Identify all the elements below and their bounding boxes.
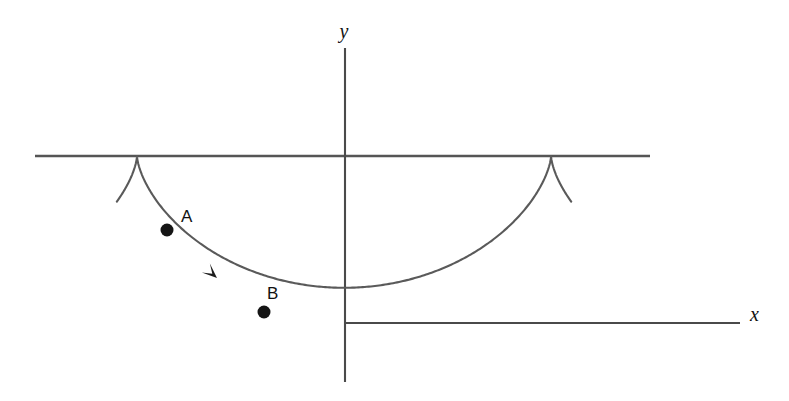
figure-canvas: A B y x: [0, 0, 789, 401]
y-axis-label: y: [338, 20, 349, 43]
x-axis-label: x: [749, 303, 759, 325]
point-marker-b: [258, 306, 271, 319]
direction-of-motion-arrow: [202, 264, 217, 279]
point-marker-a: [161, 224, 174, 237]
point-label-a: A: [181, 207, 193, 226]
point-label-b: B: [267, 284, 278, 303]
cycloid-figure: A B y x: [0, 0, 789, 401]
